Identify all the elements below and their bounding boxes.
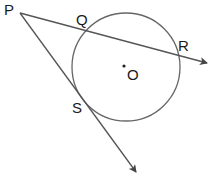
label-s: S [72, 99, 82, 116]
tangent-line-ps [20, 13, 136, 172]
center-dot [122, 64, 125, 67]
diagram-canvas: P Q R S O [0, 0, 210, 178]
circle-o [72, 13, 180, 121]
label-o: O [127, 66, 139, 83]
label-q: Q [76, 11, 88, 28]
geometry-figure: P Q R S O [0, 0, 210, 178]
label-p: P [4, 1, 14, 18]
label-r: R [178, 37, 189, 54]
